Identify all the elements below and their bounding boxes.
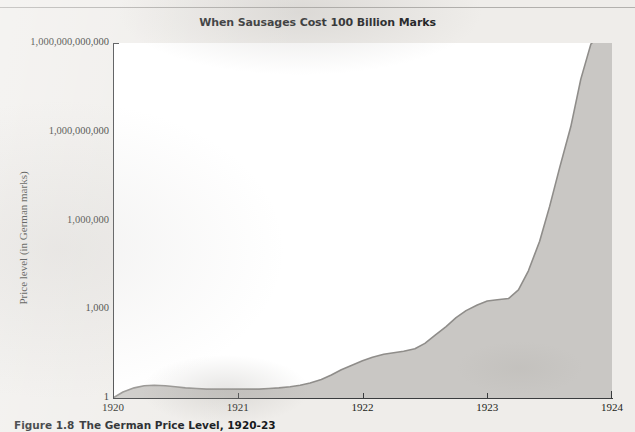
price-level-area-chart — [113, 43, 612, 398]
figure-caption-text: The German Price Level, 1920-23 — [79, 419, 275, 431]
chart-title: When Sausages Cost 100 Billion Marks — [0, 16, 635, 29]
y-tick-label-2: 1,000,000 — [67, 214, 109, 225]
y-axis-line — [113, 43, 114, 399]
page-top-rule — [0, 7, 635, 8]
x-tick-mark-2 — [363, 393, 364, 398]
x-tick-label-1: 1921 — [208, 401, 268, 413]
x-tick-mark-1 — [238, 393, 239, 398]
x-axis-right-cap — [611, 391, 612, 398]
x-tick-mark-3 — [487, 393, 488, 398]
x-tick-label-2: 1922 — [333, 401, 393, 413]
y-axis-top-cap — [113, 43, 119, 44]
y-axis-title: Price level (in German marks) — [17, 143, 29, 333]
area-fill-path — [113, 43, 612, 398]
y-tick-label-1: 1,000,000,000 — [49, 125, 109, 136]
figure-caption: Figure 1.8The German Price Level, 1920-2… — [14, 419, 276, 431]
y-tick-label-3: 1,000 — [85, 302, 109, 313]
x-tick-label-0: 1920 — [83, 401, 143, 413]
x-tick-label-4: 1924 — [582, 401, 635, 413]
figure-caption-number: Figure 1.8 — [14, 419, 74, 431]
y-tick-label-0: 1,000,000,000,000 — [30, 36, 109, 47]
x-tick-label-3: 1923 — [457, 401, 517, 413]
